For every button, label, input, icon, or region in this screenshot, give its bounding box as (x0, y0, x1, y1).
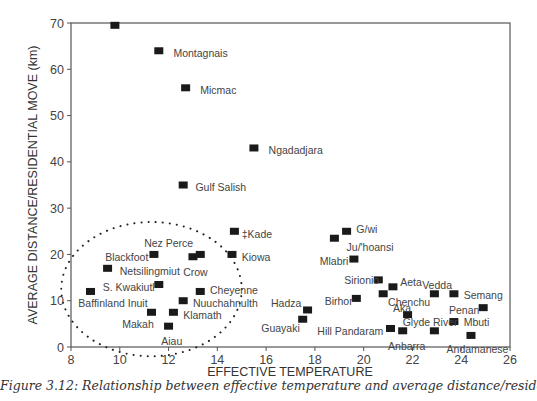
data-point: Klamath (169, 309, 222, 321)
y-tick-label: 0 (57, 341, 64, 355)
square-marker-icon (179, 297, 188, 304)
point-label: Blackfoot (105, 251, 148, 263)
data-point: S. Kwakiutl (103, 281, 164, 293)
data-point: Mlabri (320, 255, 359, 267)
square-marker-icon (449, 290, 458, 297)
axis-ticks: 8101214161820222426010203040506070 (50, 17, 517, 368)
data-point: ‡Kade (230, 228, 272, 240)
data-point: Andamanese (447, 332, 509, 355)
y-tick-label: 70 (50, 17, 64, 31)
point-label: Makah (122, 318, 154, 330)
square-marker-icon (352, 295, 361, 302)
point-label: Guayaki (261, 322, 300, 334)
point-label: Gulf Salish (195, 181, 246, 193)
figure-caption: Figure 3.12: Relationship between effect… (0, 378, 537, 393)
data-point: Aeta (388, 276, 422, 290)
point-label: Netsilingmiut (120, 265, 180, 277)
point-label: Ju/'hoansi (347, 241, 394, 253)
square-marker-icon (103, 265, 112, 272)
y-tick-label: 40 (50, 155, 64, 169)
data-point: Ju/'hoansi (330, 235, 394, 254)
x-tick-label: 10 (113, 353, 127, 367)
point-label: Semang (464, 289, 503, 301)
point-label: Birhor (325, 295, 354, 307)
point-label: Cheyenne (210, 284, 258, 296)
square-marker-icon (154, 281, 163, 288)
point-label: Vedda (422, 279, 452, 291)
square-marker-icon (303, 306, 312, 313)
data-point: Gulf Salish (179, 181, 247, 193)
data-point: Micmac (181, 84, 236, 96)
point-label: Micmac (200, 84, 236, 96)
point-label: Nez Perce (144, 237, 193, 249)
point-label: Penan (449, 304, 480, 316)
square-marker-icon (466, 332, 475, 339)
square-marker-icon (230, 228, 239, 235)
square-marker-icon (349, 256, 358, 263)
point-label: Anbarra (388, 340, 426, 352)
data-point: Hadza (271, 297, 312, 313)
data-point: Makah (122, 309, 156, 330)
x-axis-label: EFFECTIVE TEMPERATURE (207, 365, 373, 378)
point-label: Mlabri (320, 255, 349, 267)
y-tick-label: 30 (50, 202, 64, 216)
data-point: Aiau (161, 323, 182, 347)
data-point: Kiowa (227, 251, 270, 263)
point-label: Nuuchahnulth (193, 297, 258, 309)
x-tick-label: 22 (405, 353, 419, 367)
square-marker-icon (179, 182, 188, 189)
square-marker-icon (110, 22, 119, 29)
y-tick-label: 10 (50, 294, 64, 308)
data-point: Montagnais (154, 47, 227, 59)
square-marker-icon (398, 327, 407, 334)
square-marker-icon (330, 235, 339, 242)
x-tick-label: 12 (162, 353, 176, 367)
square-marker-icon (249, 144, 258, 151)
point-label: Klamath (183, 309, 222, 321)
data-point: Netsilingmiut (103, 265, 180, 277)
data-point: Vedda (422, 279, 452, 298)
point-label: Kiowa (242, 251, 271, 263)
square-marker-icon (386, 325, 395, 332)
square-marker-icon (227, 251, 236, 258)
data-point: Guayaki (261, 316, 307, 335)
data-point: Sirionio (344, 274, 383, 286)
point-label: G/wi (356, 223, 377, 235)
square-marker-icon (379, 290, 388, 297)
point-label: Montagnais (173, 47, 227, 59)
point-label: Mbuti (464, 316, 490, 328)
data-points: NunamiutMontagnaisMicmacNgadadjaraGulf S… (0, 22, 509, 356)
square-marker-icon (196, 288, 205, 295)
data-point: Cheyenne (196, 284, 258, 296)
square-marker-icon (342, 228, 351, 235)
scatter-chart: 8101214161820222426010203040506070 Nunam… (0, 0, 537, 378)
point-label: Aka (393, 302, 411, 314)
data-point: Glyde River (403, 316, 458, 334)
data-point: Penan (449, 304, 488, 316)
square-marker-icon (86, 288, 95, 295)
square-marker-icon (181, 84, 190, 91)
point-label: Sirionio (344, 274, 379, 286)
point-label: Hill Pandaram (317, 325, 383, 337)
point-label: Aeta (400, 276, 422, 288)
data-point: Hill Pandaram (317, 325, 395, 337)
point-label: Glyde River (403, 316, 458, 328)
point-label: S. Kwakiutl (103, 281, 155, 293)
point-label: Aiau (161, 335, 182, 347)
point-label: Crow (183, 266, 208, 278)
square-marker-icon (164, 323, 173, 330)
square-marker-icon (479, 304, 488, 311)
square-marker-icon (388, 283, 397, 290)
data-point: Nuuchahnulth (179, 297, 258, 309)
data-point: Ngadadjara (249, 144, 323, 156)
y-axis-label: AVERAGE DISTANCE/RESIDENTIAL MOVE (km) (26, 46, 40, 325)
y-tick-label: 20 (50, 248, 64, 262)
point-label: Hadza (271, 297, 302, 309)
point-label: Ngadadjara (269, 144, 323, 156)
x-tick-label: 8 (68, 353, 75, 367)
square-marker-icon (147, 309, 156, 316)
square-marker-icon (169, 309, 178, 316)
data-point: Semang (449, 289, 503, 301)
point-label: Andamanese (447, 343, 509, 355)
data-point: G/wi (342, 223, 377, 235)
